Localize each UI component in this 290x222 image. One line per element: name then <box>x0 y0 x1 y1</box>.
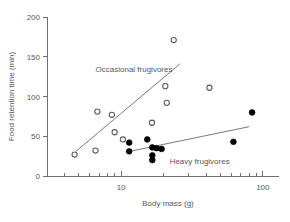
y-tick-label: 150 <box>27 53 41 62</box>
y-axis-tick-labels: 050100150200 <box>27 13 41 181</box>
y-tick-label: 50 <box>31 132 40 141</box>
data-point-open <box>149 120 154 125</box>
y-axis: 050100150200 Food retention time (min) <box>7 13 47 181</box>
food-retention-scatter-chart: 050100150200 Food retention time (min) 1… <box>0 0 290 222</box>
y-tick-label: 200 <box>27 13 41 22</box>
x-axis-title: Body mass (g) <box>142 199 194 208</box>
regression-lines <box>76 64 249 152</box>
data-point-open <box>93 148 98 153</box>
x-axis-ticks <box>47 171 263 176</box>
x-axis: 10100 Body mass (g) <box>47 171 279 208</box>
series-annotation-label: Occasional frugivores <box>96 65 173 74</box>
y-tick-label: 0 <box>36 172 41 181</box>
data-point-filled <box>249 110 255 116</box>
data-point-open <box>72 152 77 157</box>
data-point-filled <box>126 140 132 146</box>
y-axis-ticks <box>43 17 47 176</box>
data-point-open <box>163 84 168 89</box>
data-point-filled <box>144 137 150 143</box>
data-point-open <box>95 109 100 114</box>
data-point-filled <box>159 146 165 152</box>
data-point-filled <box>149 157 155 163</box>
y-tick-label: 100 <box>27 93 41 102</box>
series-annotation-label: Heavy frugivores <box>170 157 230 166</box>
regression-line <box>76 64 180 151</box>
x-tick-label: 10 <box>117 183 126 192</box>
data-point-filled <box>126 148 132 154</box>
x-tick-label: 100 <box>256 183 270 192</box>
data-point-open <box>120 137 125 142</box>
data-point-open <box>171 37 176 42</box>
data-point-open <box>112 130 117 135</box>
data-point-open <box>109 112 114 117</box>
data-point-open <box>164 100 169 105</box>
data-point-filled <box>231 139 237 145</box>
y-axis-title: Food retention time (min) <box>7 51 16 141</box>
data-point-open <box>207 85 212 90</box>
chart-container: 050100150200 Food retention time (min) 1… <box>0 0 290 222</box>
x-axis-tick-labels: 10100 <box>117 183 270 192</box>
